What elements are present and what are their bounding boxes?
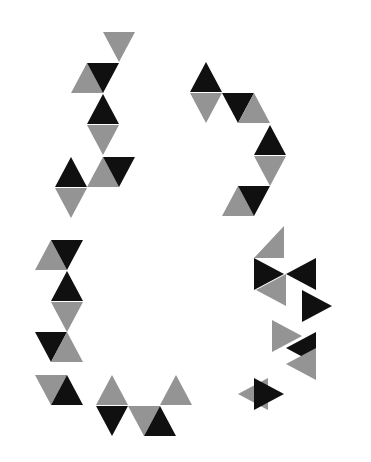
triangle-composition <box>0 0 371 462</box>
image-canvas <box>0 0 371 462</box>
